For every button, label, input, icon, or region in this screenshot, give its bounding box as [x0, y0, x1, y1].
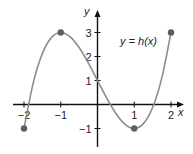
data-point [21, 125, 27, 131]
y-axis-label: y [83, 5, 91, 17]
axes: x y −2−112 321−1 [13, 5, 184, 147]
x-tick-label: 2 [168, 109, 174, 121]
y-tick-label: −1 [79, 123, 92, 135]
x-tick-label: 1 [131, 109, 137, 121]
y-axis-arrow-icon [95, 10, 101, 17]
graph-canvas: x y −2−112 321−1 y = h(x) [0, 0, 193, 154]
function-graph: x y −2−112 321−1 y = h(x) [0, 0, 193, 154]
function-label: y = h(x) [119, 35, 157, 47]
x-tick-label: −2 [18, 109, 31, 121]
data-point [131, 125, 137, 131]
data-point [168, 29, 174, 35]
x-axis-label: x [177, 106, 184, 118]
y-tick-label: 1 [85, 75, 91, 87]
data-point [58, 29, 64, 35]
x-tick-label: −1 [54, 109, 67, 121]
y-tick-label: 3 [85, 27, 91, 39]
